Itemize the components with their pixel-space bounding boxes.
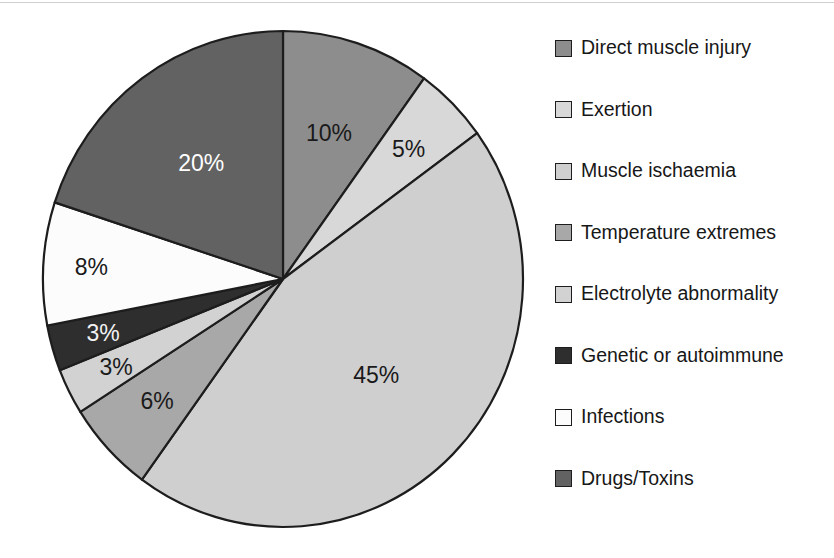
pie-slice-data-label: 45% (353, 362, 399, 388)
pie-slice-data-label: 5% (392, 136, 425, 162)
legend-swatch-icon (555, 286, 572, 303)
legend-item[interactable]: Temperature extremes (555, 219, 776, 247)
pie-chart-svg: 10%5%45%6%3%3%8%20% (28, 22, 542, 542)
legend-item-label: Electrolyte abnormality (581, 284, 778, 304)
legend-swatch-icon (555, 40, 572, 57)
legend-swatch-icon (555, 224, 572, 241)
pie-chart-figure: 10%5%45%6%3%3%8%20% Direct muscle injury… (0, 0, 834, 558)
legend-item[interactable]: Genetic or autoimmune (555, 342, 784, 370)
legend-swatch-icon (555, 163, 572, 180)
legend-item-label: Muscle ischaemia (581, 161, 736, 181)
legend-item-label: Exertion (581, 100, 653, 120)
legend-item-label: Direct muscle injury (581, 38, 751, 58)
legend-item[interactable]: Exertion (555, 96, 653, 124)
legend-item[interactable]: Drugs/Toxins (555, 465, 694, 493)
legend-item-label: Genetic or autoimmune (581, 346, 784, 366)
legend-item[interactable]: Electrolyte abnormality (555, 280, 778, 308)
legend-swatch-icon (555, 347, 572, 364)
pie-slice-data-label: 3% (100, 354, 133, 380)
pie-slice-data-label: 6% (140, 388, 173, 414)
legend-swatch-icon (555, 409, 572, 426)
pie-slice-data-label: 10% (306, 120, 352, 146)
chart-legend: Direct muscle injuryExertionMuscle ischa… (555, 34, 830, 524)
pie-slice-data-label: 3% (87, 320, 120, 346)
pie-slice-group (43, 31, 523, 527)
legend-item-label: Infections (581, 407, 664, 427)
legend-item[interactable]: Infections (555, 403, 664, 431)
pie-chart-plot-area: 10%5%45%6%3%3%8%20% (28, 22, 542, 542)
legend-item-label: Temperature extremes (581, 223, 776, 243)
top-divider-rule (0, 2, 834, 3)
legend-item[interactable]: Muscle ischaemia (555, 157, 736, 185)
legend-swatch-icon (555, 470, 572, 487)
pie-slice-data-label: 20% (178, 150, 224, 176)
legend-swatch-icon (555, 101, 572, 118)
legend-item[interactable]: Direct muscle injury (555, 34, 751, 62)
legend-item-label: Drugs/Toxins (581, 469, 694, 489)
pie-slice-data-label: 8% (75, 254, 108, 280)
